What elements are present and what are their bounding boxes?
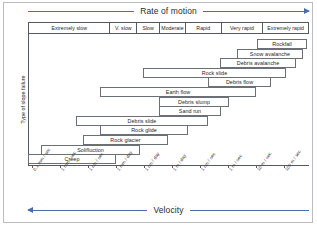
y-axis-title: Type of slope failure — [17, 34, 28, 165]
failure-type-bar: Debris slide — [76, 116, 208, 126]
failure-type-bar: Debris avalanche — [220, 58, 296, 68]
failure-type-bar: Earth flow — [100, 87, 256, 97]
failure-type-bar: Debris slump — [159, 97, 229, 107]
failure-type-bar: Rockfall — [257, 39, 307, 49]
rate-category-cell: Rapid — [186, 23, 222, 33]
failure-type-bar: Solifluction — [41, 145, 140, 155]
rate-of-motion-axis: Rate of motion — [28, 4, 309, 18]
rate-of-motion-label: Rate of motion — [134, 6, 203, 16]
x-axis-line — [28, 165, 309, 166]
rate-category-cell: Extremely rapid — [263, 23, 308, 33]
rate-category-cell: Moderate — [160, 23, 186, 33]
rate-category-cell: Slow — [137, 23, 160, 33]
rate-category-cell: Extremely slow — [29, 23, 110, 33]
rate-axis-arrow-right-icon — [203, 11, 309, 12]
rate-category-header: Extremely slowV. slowSlowModerateRapidVe… — [28, 22, 309, 34]
failure-type-bar: Sand run — [159, 106, 221, 116]
failure-type-bar: Debris flow — [208, 77, 271, 87]
failure-type-bar: Snow avalanche — [237, 49, 303, 59]
velocity-axis: Velocity — [28, 203, 309, 217]
failure-type-bar: Rock glacier — [83, 135, 168, 145]
failure-type-bar: Rock glide — [100, 125, 188, 135]
rate-category-cell: V. slow — [110, 23, 137, 33]
failure-type-bar: Rock slide — [143, 68, 286, 78]
velocity-axis-arrow-left-icon — [28, 210, 147, 211]
rate-category-cell: Very rapid — [222, 23, 264, 33]
slope-failure-velocity-chart: Rate of motion Extremely slowV. slowSlow… — [0, 0, 317, 226]
velocity-axis-line-right — [190, 210, 309, 211]
velocity-label: Velocity — [147, 205, 189, 215]
rate-axis-line-left — [28, 11, 134, 12]
